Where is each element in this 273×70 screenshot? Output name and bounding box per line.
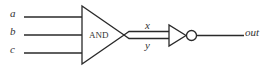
input-label-a: a xyxy=(10,8,16,19)
input-label-c: c xyxy=(10,44,15,55)
input-label-b: b xyxy=(10,26,16,37)
logic-circuit-diagram: a b c AND x y out xyxy=(0,0,273,70)
wire-label-y: y xyxy=(145,40,150,51)
wire-y xyxy=(124,35,169,39)
circuit-drawing xyxy=(0,0,273,70)
output-label: out xyxy=(245,27,259,38)
and-gate-label: AND xyxy=(89,31,109,40)
not-gate-shape xyxy=(169,25,186,46)
wire-label-x: x xyxy=(145,20,150,31)
not-gate-bubble xyxy=(187,31,197,41)
wire-x xyxy=(124,32,169,36)
